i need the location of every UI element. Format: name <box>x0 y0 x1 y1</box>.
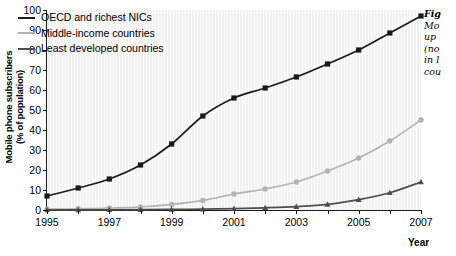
x-axis-tick <box>328 210 329 214</box>
x-axis-tick <box>78 210 79 214</box>
data-point-marker <box>356 155 361 160</box>
y-axis-title-line1: Mobile phone subscribers <box>3 7 14 207</box>
x-axis-tick-label: 2003 <box>285 216 308 228</box>
figure-mobile-phone-subscribers: Mobile phone subscribers (% of populatio… <box>0 0 456 256</box>
legend-line-icon <box>18 17 35 19</box>
x-axis-tick <box>141 210 142 214</box>
caption-line: in l <box>424 54 456 66</box>
x-axis-tick <box>421 210 422 214</box>
x-axis-tick <box>359 210 360 214</box>
data-point-marker <box>356 47 361 52</box>
y-axis-tick <box>43 190 47 191</box>
y-axis-tick-label: 0 <box>35 204 41 216</box>
x-axis-tick-label: 1999 <box>160 216 183 228</box>
caption-line: (no <box>424 43 456 55</box>
legend-label: OECD and richest NICs <box>41 10 152 26</box>
y-axis-tick <box>43 130 47 131</box>
y-axis-tick <box>43 110 47 111</box>
data-point-marker <box>325 61 330 66</box>
x-axis-tick-label: 2007 <box>409 216 432 228</box>
y-axis-tick-label: 70 <box>29 64 41 76</box>
data-point-marker <box>231 95 236 100</box>
y-axis-tick-label: 20 <box>29 164 41 176</box>
y-axis-tick <box>43 170 47 171</box>
x-axis-tick <box>234 210 235 214</box>
data-point-marker <box>325 168 330 173</box>
legend-item-1[interactable]: Middle-income countries <box>18 26 164 42</box>
caption-line: Mo <box>424 20 456 32</box>
y-axis-tick-label: 60 <box>29 84 41 96</box>
legend: OECD and richest NICsMiddle-income count… <box>18 10 164 57</box>
data-point-marker <box>107 176 112 181</box>
x-axis-tick <box>172 210 173 214</box>
data-point-marker <box>76 185 81 190</box>
caption-line: cou <box>424 66 456 78</box>
y-axis-tick-label: 30 <box>29 144 41 156</box>
data-point-marker <box>263 85 268 90</box>
data-point-marker <box>44 193 49 198</box>
x-axis-title: Year <box>408 237 429 248</box>
data-point-marker <box>294 74 299 79</box>
figure-caption: FigMoup(noin lcou <box>424 8 456 78</box>
data-point-marker <box>262 186 267 191</box>
legend-item-2[interactable]: Least developed countries <box>18 41 164 57</box>
data-point-marker <box>200 198 205 203</box>
data-point-marker <box>387 30 392 35</box>
caption-line: Fig <box>424 8 456 20</box>
x-axis-tick <box>47 210 48 214</box>
x-axis-tick-label: 2001 <box>222 216 245 228</box>
legend-label: Middle-income countries <box>41 26 155 42</box>
x-axis-tick-label: 1995 <box>35 216 58 228</box>
x-axis-tick <box>390 210 391 214</box>
x-axis-tick <box>265 210 266 214</box>
data-point-marker <box>294 179 299 184</box>
data-point-marker <box>138 162 143 167</box>
data-point-marker <box>200 113 205 118</box>
data-point-marker <box>418 13 423 18</box>
legend-label: Least developed countries <box>41 41 164 57</box>
data-point-marker <box>169 202 174 207</box>
legend-item-0[interactable]: OECD and richest NICs <box>18 10 164 26</box>
data-point-marker <box>418 179 424 184</box>
y-axis-tick <box>43 90 47 91</box>
x-axis-tick-label: 1997 <box>98 216 121 228</box>
data-point-marker <box>418 117 423 122</box>
data-point-marker <box>169 141 174 146</box>
y-axis-tick-label: 50 <box>29 104 41 116</box>
y-axis-tick-label: 40 <box>29 124 41 136</box>
legend-line-icon <box>18 48 35 50</box>
x-axis-tick <box>296 210 297 214</box>
caption-line: up <box>424 31 456 43</box>
y-axis-tick <box>43 150 47 151</box>
x-axis-tick <box>109 210 110 214</box>
y-axis-tick <box>43 70 47 71</box>
data-point-marker <box>387 138 392 143</box>
x-axis-tick <box>203 210 204 214</box>
x-axis-tick-label: 2005 <box>347 216 370 228</box>
legend-line-icon <box>18 32 35 34</box>
y-axis-tick-label: 10 <box>29 184 41 196</box>
data-point-marker <box>231 191 236 196</box>
